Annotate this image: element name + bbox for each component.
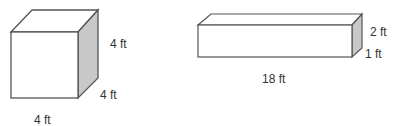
cube-height-label: 4 ft xyxy=(110,38,127,50)
prism-height-label: 2 ft xyxy=(370,26,387,38)
prism-length-label: 18 ft xyxy=(262,73,285,85)
cube-width-label: 4 ft xyxy=(34,114,51,126)
prism-depth-label: 1 ft xyxy=(365,48,382,60)
prism-top-face xyxy=(198,14,362,25)
cube-depth-label: 4 ft xyxy=(100,89,117,101)
prism-figure xyxy=(198,14,362,57)
diagram-canvas xyxy=(0,0,398,126)
cube-front-face xyxy=(11,32,78,98)
prism-front-face xyxy=(198,25,352,57)
cube-figure xyxy=(11,10,98,98)
